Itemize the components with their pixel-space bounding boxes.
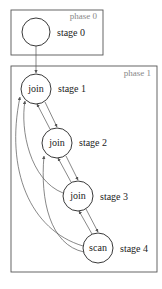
stage-4-label: stage 4: [120, 243, 148, 254]
stage-0-circle: [22, 18, 50, 46]
edge-4-1: [16, 97, 83, 246]
stage-2-label: stage 2: [79, 137, 107, 148]
node-stage-1: join stage 1: [21, 74, 86, 104]
node-stage-0: stage 0: [22, 18, 85, 46]
stage-3-op: join: [69, 190, 86, 201]
stage-1-label: stage 1: [58, 83, 86, 94]
phase-1-label: phase 1: [124, 68, 151, 78]
edge-4-3: [79, 211, 92, 234]
stage-4-op: scan: [89, 242, 107, 253]
node-stage-3: join stage 3: [63, 181, 128, 211]
stage-1-op: join: [27, 83, 44, 94]
stage-3-label: stage 3: [100, 191, 128, 202]
node-stage-2: join stage 2: [42, 128, 107, 158]
stage-2-op: join: [48, 137, 65, 148]
pipeline-diagram: phase 0 phase 1 stage 0 join stage 1: [0, 0, 162, 289]
node-stage-4: scan stage 4: [83, 233, 148, 263]
edge-3-4: [86, 209, 98, 232]
stage-0-label: stage 0: [57, 27, 85, 38]
phase-0-label: phase 0: [70, 11, 98, 21]
